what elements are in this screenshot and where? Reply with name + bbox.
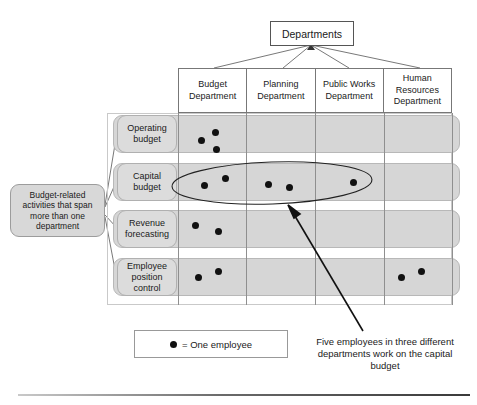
annotation-arrow [288,205,363,331]
capital-budget-highlight-ellipse [171,159,372,208]
highlight-layer [0,0,477,405]
diagram-canvas: Operating budget Capital budget Revenue … [0,0,477,405]
